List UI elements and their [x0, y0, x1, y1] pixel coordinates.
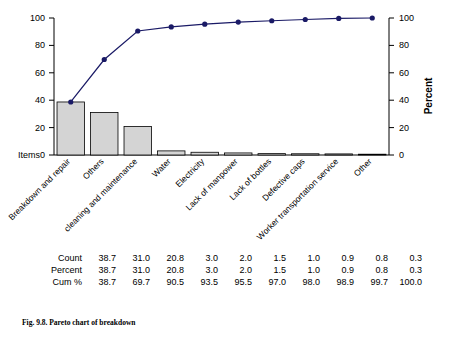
table-row: Cum %38.769.790.593.595.597.098.098.999.… [24, 276, 422, 288]
table-cell: 0.9 [320, 264, 354, 276]
table-cell: 1.0 [286, 252, 320, 264]
svg-text:0: 0 [399, 150, 404, 160]
table-cell: 3.0 [184, 252, 218, 264]
svg-text:20: 20 [399, 123, 409, 133]
category-label: Water [150, 156, 173, 179]
table-cell: 0.3 [388, 252, 422, 264]
table-cell: 1.5 [252, 252, 286, 264]
table-cell: 98.9 [320, 276, 354, 288]
pareto-chart-figure: 0 20 40 60 80 100 0 20 40 60 80 100 [0, 0, 450, 337]
data-point-marker [169, 24, 174, 29]
bar [158, 151, 185, 155]
category-label: Electricity [173, 156, 206, 189]
figure-caption: Fig. 9.8. Pareto chart of breakdown [22, 318, 135, 327]
bar [124, 127, 151, 156]
table-cell: 2.0 [218, 264, 252, 276]
chart-plot-area: 0 20 40 60 80 100 0 20 40 60 80 100 [0, 0, 450, 270]
table-cell: 2.0 [218, 252, 252, 264]
pareto-svg: 0 20 40 60 80 100 0 20 40 60 80 100 [0, 0, 450, 270]
table-row-label: Count [24, 252, 82, 264]
table-cell: 20.8 [150, 264, 184, 276]
cumulative-line [71, 18, 373, 102]
table-row: Count38.731.020.83.02.01.51.00.90.80.3 [24, 252, 422, 264]
bar [258, 154, 285, 155]
bar [325, 154, 352, 155]
table-cell: 90.5 [150, 276, 184, 288]
table-cell: 97.0 [252, 276, 286, 288]
svg-text:60: 60 [35, 68, 45, 78]
svg-text:40: 40 [35, 95, 45, 105]
bar [359, 154, 386, 155]
data-point-marker [336, 16, 341, 21]
svg-text:100: 100 [30, 13, 45, 23]
data-point-marker [236, 20, 241, 25]
table-row: Percent38.731.020.83.02.01.51.00.90.80.3 [24, 264, 422, 276]
bar-series [57, 102, 386, 155]
category-labels: Breakdown and repairOtherscleaning and m… [6, 156, 373, 242]
data-point-marker [202, 22, 207, 27]
data-point-marker [68, 99, 73, 104]
table-cell: 95.5 [218, 276, 252, 288]
cumulative-markers [68, 15, 375, 104]
stats-table-area: Count38.731.020.83.02.01.51.00.90.80.3Pe… [0, 252, 450, 288]
table-cell: 0.9 [320, 252, 354, 264]
table-cell: 99.7 [354, 276, 388, 288]
svg-text:60: 60 [399, 68, 409, 78]
svg-text:100: 100 [399, 13, 414, 23]
table-cell: 98.0 [286, 276, 320, 288]
table-cell: 1.5 [252, 264, 286, 276]
bar [225, 153, 252, 155]
right-axis-ticks: 0 20 40 60 80 100 [389, 13, 414, 160]
right-axis-title: Percent [423, 77, 434, 114]
data-point-marker [370, 15, 375, 20]
table-cell: 0.8 [354, 252, 388, 264]
table-cell: 93.5 [184, 276, 218, 288]
data-point-marker [135, 28, 140, 33]
table-cell: 69.7 [116, 276, 150, 288]
table-cell: 38.7 [82, 252, 116, 264]
svg-text:80: 80 [35, 40, 45, 50]
category-label: Breakdown and repair [6, 156, 72, 222]
table-cell: 0.8 [354, 264, 388, 276]
bar [57, 102, 84, 155]
bar [91, 113, 118, 155]
data-point-marker [269, 18, 274, 23]
bar [191, 152, 218, 155]
table-row-label: Percent [24, 264, 82, 276]
table-cell: 31.0 [116, 264, 150, 276]
category-label: Other [352, 156, 374, 178]
table-cell: 1.0 [286, 264, 320, 276]
bar [292, 154, 319, 155]
svg-text:80: 80 [399, 40, 409, 50]
table-cell: 3.0 [184, 264, 218, 276]
table-cell: 38.7 [82, 264, 116, 276]
table-cell: 20.8 [150, 252, 184, 264]
svg-text:0: 0 [40, 150, 45, 160]
table-row-label: Cum % [24, 276, 82, 288]
table-cell: 31.0 [116, 252, 150, 264]
stats-table: Count38.731.020.83.02.01.51.00.90.80.3Pe… [24, 252, 422, 288]
data-point-marker [303, 17, 308, 22]
left-axis-ticks: 0 20 40 60 80 100 [30, 13, 54, 160]
data-point-marker [102, 57, 107, 62]
items-axis-label: Items [18, 150, 41, 160]
table-cell: 100.0 [388, 276, 422, 288]
table-cell: 38.7 [82, 276, 116, 288]
svg-text:20: 20 [35, 123, 45, 133]
table-cell: 0.3 [388, 264, 422, 276]
svg-text:40: 40 [399, 95, 409, 105]
category-label: Others [81, 156, 106, 181]
